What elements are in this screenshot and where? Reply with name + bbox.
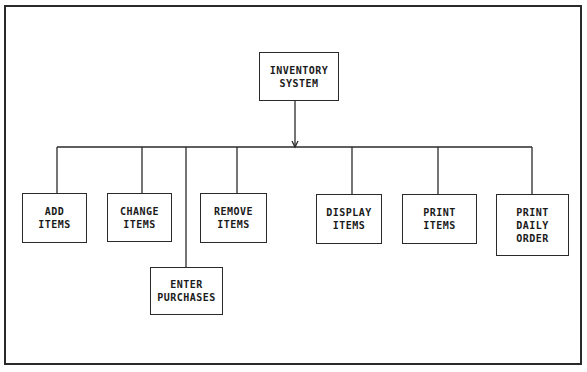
node-display-items: DISPLAY ITEMS — [316, 194, 382, 244]
node-remove-items: REMOVE ITEMS — [200, 193, 267, 243]
node-inventory-system: INVENTORY SYSTEM — [259, 52, 339, 101]
node-label: ENTER PURCHASES — [157, 278, 216, 304]
node-change-items: CHANGE ITEMS — [107, 193, 172, 242]
node-label: DISPLAY ITEMS — [326, 206, 372, 232]
node-add-items: ADD ITEMS — [22, 193, 87, 243]
node-label: ADD ITEMS — [38, 205, 71, 231]
node-label: CHANGE ITEMS — [120, 205, 159, 231]
node-label: REMOVE ITEMS — [214, 205, 253, 231]
node-label: PRINT DAILY ORDER — [516, 206, 549, 245]
node-label: PRINT ITEMS — [423, 206, 456, 232]
node-print-items: PRINT ITEMS — [402, 194, 477, 244]
node-enter-purchases: ENTER PURCHASES — [150, 267, 223, 315]
node-label: INVENTORY SYSTEM — [270, 64, 329, 90]
node-print-daily-order: PRINT DAILY ORDER — [496, 194, 569, 256]
